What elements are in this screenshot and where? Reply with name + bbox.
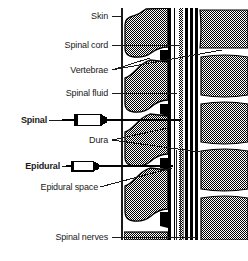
spinal-syringe-barrel <box>77 115 101 126</box>
interlaminar-gap <box>160 158 168 170</box>
vertebral-bodies-group <box>200 10 248 240</box>
interlaminar-gap <box>160 104 168 116</box>
dura-line <box>174 8 176 240</box>
posterior-longitudinal-ligament <box>190 8 193 240</box>
vertebral-body <box>201 102 248 144</box>
label-spinal-nerves: Spinal nerves <box>55 232 108 242</box>
cauda-equina-streak <box>183 150 184 240</box>
vertebral-body <box>200 10 248 48</box>
interlaminar-gap <box>160 212 168 228</box>
vertebral-body <box>201 55 248 97</box>
label-skin: Skin <box>91 11 108 21</box>
canal-anterior-gap <box>193 8 196 240</box>
vertebral-body-posterior-wall <box>195 8 197 240</box>
vertebral-body <box>201 149 248 191</box>
label-spinal-fluid: Spinal fluid <box>66 88 108 98</box>
spine-anatomy-diagram <box>0 0 248 261</box>
label-spinal: Spinal <box>21 115 47 125</box>
dura-anterior-line <box>185 8 187 240</box>
sacrum-block <box>124 232 168 240</box>
label-spinal-cord: Spinal cord <box>65 40 108 50</box>
figure-root: Skin Spinal cord Vertebrae Spinal fluid … <box>0 0 248 261</box>
cauda-equina-streak <box>180 150 181 240</box>
label-vertebrae: Vertebrae <box>70 65 108 75</box>
cauda-equina-streak <box>176 150 177 240</box>
label-dura: Dura <box>89 135 108 145</box>
label-epidural: Epidural <box>25 161 60 171</box>
spinal-canal-group <box>168 8 198 240</box>
epidural-space-band <box>171 8 173 240</box>
anterior-epidural-band <box>188 8 191 240</box>
epidural-syringe-barrel <box>74 162 94 172</box>
label-epidural-space: Epidural space <box>41 182 98 192</box>
vertebral-body <box>201 196 248 240</box>
